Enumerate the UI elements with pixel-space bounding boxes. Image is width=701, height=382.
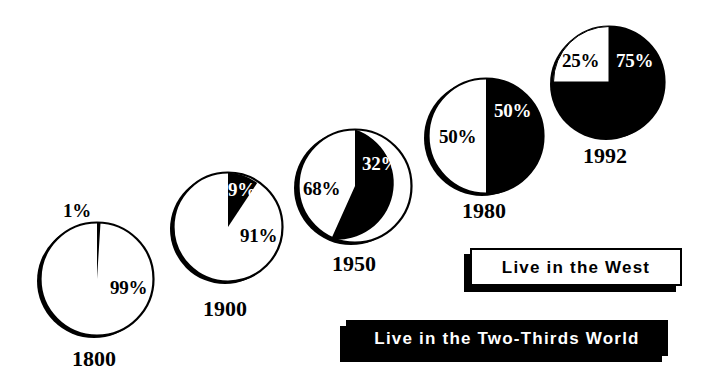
legend-west-label: Live in the West (502, 259, 650, 276)
pie-1992-graphic (548, 22, 674, 144)
legend-twothirds[interactable]: Live in the Two-Thirds World (346, 320, 668, 356)
pie-chart-1900: 9% 91% (168, 168, 290, 290)
pie-chart-1992: 25% 75% (548, 22, 674, 144)
chart-canvas: 1% 99% 1800 9% 91% 1900 32% 68% 1950 (0, 0, 701, 382)
pie-chart-1950: 32% 68% (292, 126, 420, 250)
pie-1800-west-label: 99% (110, 278, 147, 297)
pie-1992-twothirds-label: 75% (616, 51, 653, 70)
pie-chart-1800: 1% 99% (34, 218, 158, 342)
pie-1800-year-label: 1800 (72, 348, 116, 370)
pie-1900-twothirds-label: 9% (228, 180, 256, 199)
pie-1900-west-label: 91% (240, 226, 277, 245)
pie-1950-twothirds-label: 32% (362, 154, 399, 173)
pie-chart-1980: 50% 50% (422, 74, 552, 200)
pie-1800-twothirds-label: 1% (63, 201, 91, 220)
pie-1900-year-label: 1900 (203, 298, 247, 320)
pie-1980-twothirds-slice (486, 79, 543, 194)
pie-1980-west-label: 50% (439, 127, 476, 146)
legend-west[interactable]: Live in the West (470, 248, 682, 286)
pie-1950-west-label: 68% (303, 179, 340, 198)
pie-1980-year-label: 1980 (462, 200, 506, 222)
pie-1950-year-label: 1950 (332, 253, 376, 275)
legend-twothirds-label: Live in the Two-Thirds World (374, 330, 639, 347)
pie-1980-twothirds-label: 50% (494, 101, 531, 120)
pie-1992-year-label: 1992 (583, 145, 627, 167)
pie-1992-west-label: 25% (562, 51, 599, 70)
